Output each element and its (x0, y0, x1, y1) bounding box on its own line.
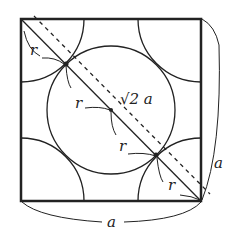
geometry-diagram: r r √2 a r r a a (0, 0, 238, 239)
side-dimension-bottom (124, 202, 201, 222)
side-dimension-right (202, 19, 219, 200)
r-arc (111, 112, 116, 135)
label-r-center-lower: r (119, 137, 127, 155)
side-dimension-bottom (22, 202, 102, 222)
label-r-bottom-right: r (168, 176, 176, 194)
label-side-bottom: a (107, 213, 116, 231)
quarter-circle-top-right (138, 19, 201, 82)
quarter-circle-bottom-left (21, 138, 84, 201)
label-r-center-upper: r (75, 94, 83, 112)
tangent-point (64, 62, 69, 67)
label-diagonal: √2 a (120, 90, 153, 108)
r-arc (85, 107, 110, 110)
r-arc (128, 153, 156, 156)
label-side-right: a (214, 154, 223, 172)
label-r-top-left: r (30, 41, 38, 59)
